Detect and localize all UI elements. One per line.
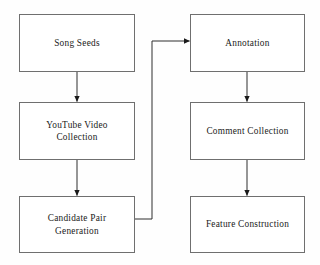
- node-candidate-pair-generation[interactable]: Candidate Pair Generation: [19, 196, 135, 253]
- node-feature-construction-label: Feature Construction: [202, 218, 293, 231]
- node-comment-collection[interactable]: Comment Collection: [190, 102, 305, 160]
- node-feature-construction[interactable]: Feature Construction: [190, 196, 305, 253]
- node-candidate-pair-generation-label: Candidate Pair Generation: [44, 212, 111, 237]
- node-comment-collection-label: Comment Collection: [202, 125, 292, 138]
- node-song-seeds-label: Song Seeds: [50, 37, 104, 50]
- node-annotation[interactable]: Annotation: [190, 14, 305, 72]
- flowchart-diagram: Song Seeds YouTube Video Collection Cand…: [0, 0, 320, 265]
- node-song-seeds[interactable]: Song Seeds: [19, 14, 135, 72]
- edge-candidate-to-annotation: [135, 41, 190, 219]
- node-youtube-video-collection[interactable]: YouTube Video Collection: [19, 102, 135, 160]
- node-youtube-video-collection-label: YouTube Video Collection: [42, 119, 111, 144]
- node-annotation-label: Annotation: [221, 37, 273, 50]
